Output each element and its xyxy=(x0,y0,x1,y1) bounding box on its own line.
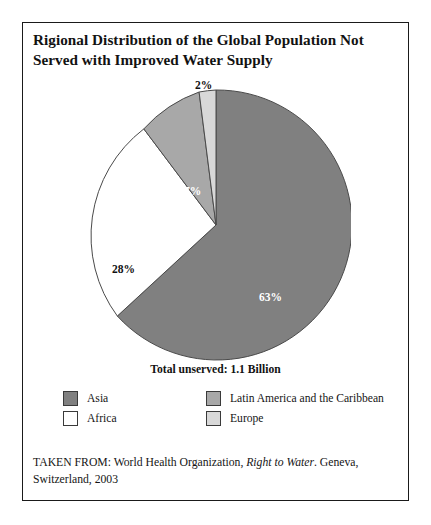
legend-row: Asia Latin America and the Caribbean xyxy=(63,391,403,406)
pie-svg xyxy=(81,89,351,361)
pie-label-africa: 28% xyxy=(112,263,135,275)
legend-swatch-icon xyxy=(206,411,221,426)
legend-label: Europe xyxy=(230,412,263,425)
chart-legend: Asia Latin America and the Caribbean Afr… xyxy=(63,391,403,431)
legend-item-latin-america[interactable]: Latin America and the Caribbean xyxy=(206,391,384,406)
legend-item-europe[interactable]: Europe xyxy=(206,411,263,426)
pie-chart: 2% 7% 28% 63% xyxy=(23,75,408,365)
legend-label: Latin America and the Caribbean xyxy=(230,392,384,405)
figure-frame: Rigional Distribution of the Global Popu… xyxy=(22,22,409,501)
legend-label: Asia xyxy=(87,392,108,405)
source-work-title: Right to Water xyxy=(246,456,314,469)
source-citation: TAKEN FROM: World Health Organization, R… xyxy=(33,455,401,488)
legend-swatch-icon xyxy=(63,391,78,406)
source-prefix: TAKEN FROM: World Health Organization, xyxy=(33,456,246,469)
pie-label-asia: 63% xyxy=(259,291,282,303)
pie-label-latin-america: 7% xyxy=(184,185,201,197)
legend-label: Africa xyxy=(87,412,117,425)
legend-item-asia[interactable]: Asia xyxy=(63,391,206,406)
total-unserved-caption: Total unserved: 1.1 Billion xyxy=(23,363,408,376)
pie-label-europe: 2% xyxy=(195,79,212,91)
chart-title: Rigional Distribution of the Global Popu… xyxy=(33,30,401,70)
legend-row: Africa Europe xyxy=(63,411,403,426)
legend-swatch-icon xyxy=(206,391,221,406)
legend-swatch-icon xyxy=(63,411,78,426)
legend-item-africa[interactable]: Africa xyxy=(63,411,206,426)
